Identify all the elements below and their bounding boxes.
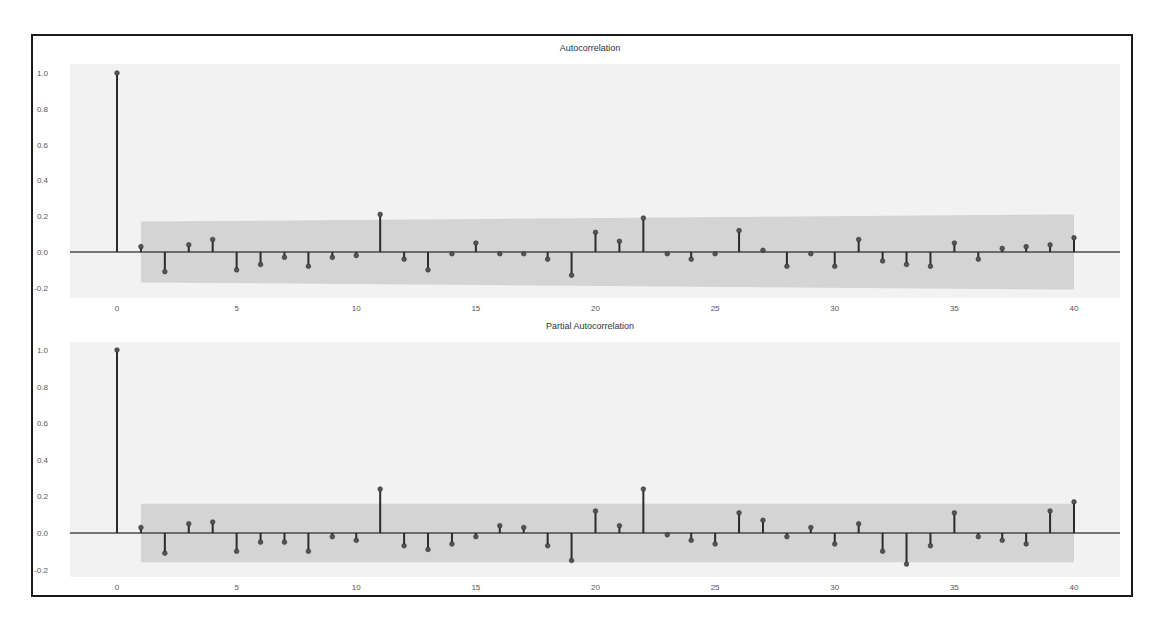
y-tick-label: 0.6 xyxy=(37,419,49,428)
stem-lag-27 xyxy=(761,248,766,253)
y-tick-label: 0.2 xyxy=(37,212,49,221)
x-tick-label: 30 xyxy=(830,583,839,592)
x-tick-label: 25 xyxy=(711,583,720,592)
stem-lag-14 xyxy=(450,251,455,256)
x-tick-label: 5 xyxy=(234,583,239,592)
x-tick-label: 20 xyxy=(591,304,600,313)
y-tick-label: 1.0 xyxy=(37,346,49,355)
x-tick-label: 10 xyxy=(352,304,361,313)
acf-plot: Autocorrelation-0.20.00.20.40.60.81.0051… xyxy=(34,43,1120,313)
x-tick-label: 0 xyxy=(115,583,120,592)
x-tick-label: 5 xyxy=(234,304,239,313)
pacf-plot: Partial Autocorrelation-0.20.00.20.40.60… xyxy=(34,321,1120,592)
stem-lag-17 xyxy=(521,251,526,256)
y-tick-label: 0.8 xyxy=(37,383,49,392)
y-tick-label: 0.0 xyxy=(37,248,49,257)
y-tick-label: 0.4 xyxy=(37,456,49,465)
x-tick-label: 35 xyxy=(950,304,959,313)
acf-title: Autocorrelation xyxy=(560,43,621,53)
y-tick-label: -0.2 xyxy=(34,284,48,293)
stem-lag-25 xyxy=(713,251,718,256)
x-tick-label: 10 xyxy=(352,583,361,592)
x-tick-label: 40 xyxy=(1070,583,1079,592)
stem-lag-23 xyxy=(665,251,670,256)
x-tick-label: 35 xyxy=(950,583,959,592)
x-tick-label: 40 xyxy=(1070,304,1079,313)
stem-lag-23 xyxy=(665,533,670,538)
stem-lag-16 xyxy=(498,251,503,256)
y-tick-label: 0.4 xyxy=(37,176,49,185)
x-tick-label: 15 xyxy=(471,304,480,313)
y-tick-label: 0.0 xyxy=(37,529,49,538)
y-tick-label: 0.6 xyxy=(37,141,49,150)
x-tick-label: 20 xyxy=(591,583,600,592)
y-tick-label: -0.2 xyxy=(34,566,48,575)
x-tick-label: 0 xyxy=(115,304,120,313)
acf-pacf-figure: Autocorrelation-0.20.00.20.40.60.81.0051… xyxy=(0,0,1163,631)
stem-lag-29 xyxy=(809,251,814,256)
pacf-title: Partial Autocorrelation xyxy=(546,321,634,331)
y-tick-label: 0.2 xyxy=(37,492,49,501)
x-tick-label: 25 xyxy=(711,304,720,313)
x-tick-label: 15 xyxy=(471,583,480,592)
y-tick-label: 0.8 xyxy=(37,105,49,114)
x-tick-label: 30 xyxy=(830,304,839,313)
y-tick-label: 1.0 xyxy=(37,69,49,78)
